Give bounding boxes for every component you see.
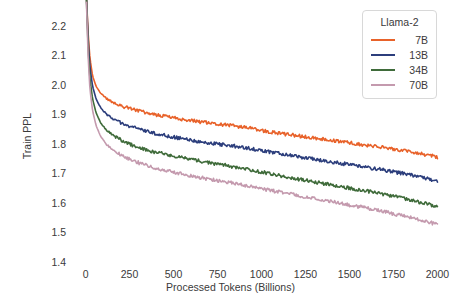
x-tick-label: 500 <box>165 268 183 280</box>
y-tick-label: 1.7 <box>36 167 66 179</box>
legend-entry: 13B <box>371 47 428 62</box>
y-tick-label: 1.5 <box>36 226 66 238</box>
y-tick-label: 2.2 <box>36 20 66 32</box>
x-tick-label: 1250 <box>294 268 317 280</box>
y-tick-label: 2.1 <box>36 49 66 61</box>
legend-color-swatch <box>371 54 395 56</box>
y-tick-label: 1.9 <box>36 108 66 120</box>
legend-entry-label: 13B <box>402 49 428 61</box>
x-tick-label: 1000 <box>250 268 273 280</box>
x-tick-label: 750 <box>209 268 227 280</box>
legend-entry-label: 70B <box>402 79 428 91</box>
legend-entry-label: 7B <box>402 34 428 46</box>
y-axis-label: Train PPL <box>21 96 33 176</box>
legend-color-swatch <box>371 39 395 41</box>
legend-entry-label: 34B <box>402 64 428 76</box>
y-tick-label: 1.4 <box>36 256 66 268</box>
legend-color-swatch <box>371 69 395 71</box>
y-tick-label: 2.0 <box>36 79 66 91</box>
legend: Llama-2 7B13B34B70B <box>362 10 437 99</box>
x-axis-label: Processed Tokens (Billions) <box>0 281 461 293</box>
legend-entry: 70B <box>371 77 428 92</box>
legend-color-swatch <box>371 84 395 86</box>
legend-entry: 7B <box>371 32 428 47</box>
y-tick-label: 1.8 <box>36 138 66 150</box>
chart-figure: 1.41.51.61.71.81.92.02.12.2 025050075010… <box>0 0 461 306</box>
x-tick-label: 1750 <box>382 268 405 280</box>
x-tick-label: 250 <box>121 268 139 280</box>
x-tick-label: 1500 <box>338 268 361 280</box>
x-tick-label: 2000 <box>426 268 449 280</box>
legend-entries: 7B13B34B70B <box>371 32 428 92</box>
y-tick-label: 1.6 <box>36 197 66 209</box>
legend-title: Llama-2 <box>371 16 428 28</box>
x-tick-label: 0 <box>83 268 89 280</box>
legend-entry: 34B <box>371 62 428 77</box>
